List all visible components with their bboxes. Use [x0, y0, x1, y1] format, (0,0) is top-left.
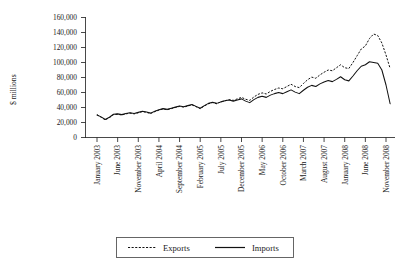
x-tick-label: January 2008 [341, 145, 350, 185]
legend-label-imports: Imports [252, 243, 279, 253]
trade-line-chart: $ millions 020,00040,00060,00080,000100,… [0, 0, 409, 265]
x-tick-label: March 2007 [299, 145, 308, 181]
x-tick-label: November 2003 [134, 145, 143, 193]
x-tick-label: December 2005 [237, 145, 246, 192]
x-tick-label: September 2004 [175, 145, 184, 194]
legend-label-exports: Exports [163, 243, 190, 253]
x-tick-label: August 2007 [320, 145, 329, 183]
x-axis-tick-labels: January 2003June 2003November 2003April … [93, 145, 391, 194]
x-tick-label: February 2005 [196, 145, 205, 189]
x-tick-label: June 2008 [361, 145, 370, 175]
y-tick-label: 100,000 [53, 58, 77, 67]
x-tick-label: May 2006 [258, 145, 267, 175]
y-axis-title-label: $ millions [9, 74, 18, 105]
y-axis-ticks: 020,00040,00060,00080,000100,000120,0001… [53, 13, 86, 142]
y-tick-label: 40,000 [57, 103, 78, 112]
y-tick-label: 140,000 [53, 28, 77, 37]
y-tick-label: 160,000 [53, 13, 77, 22]
x-tick-label: April 2004 [155, 145, 164, 178]
y-axis-title: $ millions [9, 74, 18, 105]
y-tick-label: 20,000 [57, 118, 78, 127]
y-tick-label: 60,000 [57, 88, 78, 97]
y-tick-label: 0 [73, 133, 77, 142]
x-tick-label: November 2008 [382, 145, 391, 193]
y-tick-label: 120,000 [53, 43, 77, 52]
chart-legend: Exports Imports [117, 238, 294, 258]
series-line-exports [97, 34, 390, 120]
y-tick-label: 80,000 [57, 73, 78, 82]
series-line-imports [97, 62, 390, 120]
x-tick-label: January 2003 [93, 145, 102, 185]
x-tick-label: July 2005 [217, 145, 226, 174]
chart-container: $ millions 020,00040,00060,00080,000100,… [0, 0, 409, 265]
x-tick-label: June 2003 [113, 145, 122, 175]
x-tick-label: October 2006 [279, 145, 288, 186]
x-axis-ticks [97, 138, 386, 143]
